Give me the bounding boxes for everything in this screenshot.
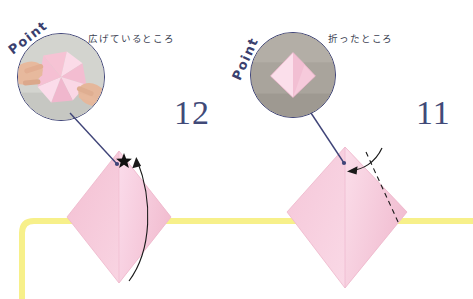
caption-step-11: 折ったところ <box>328 31 393 45</box>
diagram-diamond-with-star <box>67 151 171 283</box>
photo-hands-spreading-pinwheel <box>17 33 105 121</box>
diamond-outline <box>67 151 171 283</box>
photo-left-content <box>18 34 104 120</box>
kite-left-half <box>287 147 407 288</box>
pointer-line-right <box>311 113 344 163</box>
star-marker <box>116 153 132 168</box>
step-number-11: 11 <box>416 96 451 130</box>
fold-arrow-path <box>352 148 382 170</box>
photo-right-content <box>251 33 335 117</box>
kite-outline <box>287 147 407 288</box>
photo-folded-pink-diamond <box>250 32 336 118</box>
pointer-line-left <box>70 113 117 164</box>
step-number-12: 12 <box>174 96 210 130</box>
curved-arrow-path <box>129 160 148 281</box>
curved-arrow-head <box>132 157 141 168</box>
diamond-left-half <box>67 151 171 283</box>
fold-arrow-head <box>347 166 358 174</box>
pointer-dot-left <box>115 162 119 166</box>
diamond-right-half <box>119 151 171 283</box>
kite-right-half <box>345 147 407 288</box>
pointer-dot-right <box>342 161 346 165</box>
yellow-guide-line <box>22 221 473 299</box>
dashed-fold-line <box>366 152 399 224</box>
origami-instruction-page: Point Point 広げているところ 折ったところ 12 11 <box>0 0 473 299</box>
caption-step-12: 広げているところ <box>88 31 175 45</box>
diagram-kite-with-dashed-fold <box>287 147 407 288</box>
